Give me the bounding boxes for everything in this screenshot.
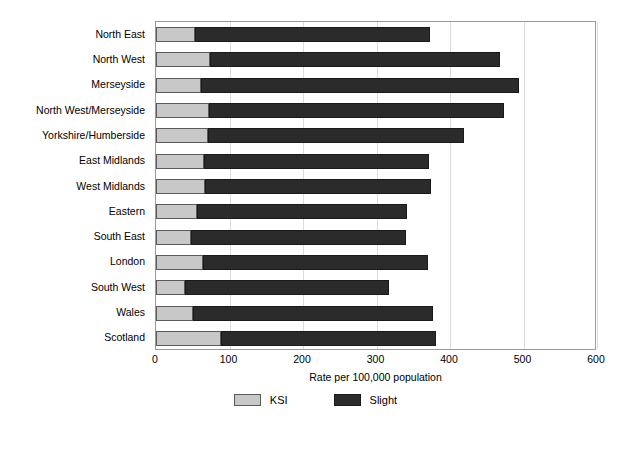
bar-segment-slight[interactable] <box>208 128 464 143</box>
x-tick-label-100: 100 <box>220 353 238 365</box>
legend-item-ksi[interactable]: KSI <box>234 394 288 406</box>
bar-segment-slight[interactable] <box>191 230 406 245</box>
x-tick-label-0: 0 <box>152 353 158 365</box>
bar-segment-slight[interactable] <box>185 280 389 295</box>
y-axis-category-labels: North EastNorth WestMerseysideNorth West… <box>0 21 150 350</box>
bar-row[interactable] <box>156 52 597 67</box>
bar-segment-slight[interactable] <box>193 306 433 321</box>
bar-row[interactable] <box>156 255 597 270</box>
x-tick-label-600: 600 <box>587 353 605 365</box>
bar-row[interactable] <box>156 179 597 194</box>
y-axis-label: North West/Merseyside <box>0 104 145 116</box>
bar-row[interactable] <box>156 103 597 118</box>
bar-segment-ksi[interactable] <box>156 179 205 194</box>
bar-segment-ksi[interactable] <box>156 154 204 169</box>
bar-row[interactable] <box>156 204 597 219</box>
bar-row[interactable] <box>156 230 597 245</box>
bar-row[interactable] <box>156 280 597 295</box>
bar-row[interactable] <box>156 27 597 42</box>
legend-label: KSI <box>270 394 288 406</box>
y-axis-label: South West <box>0 281 145 293</box>
bar-segment-ksi[interactable] <box>156 78 201 93</box>
bar-segment-ksi[interactable] <box>156 306 193 321</box>
bar-row[interactable] <box>156 78 597 93</box>
bar-segment-slight[interactable] <box>197 204 407 219</box>
bar-segment-ksi[interactable] <box>156 280 185 295</box>
bar-segment-ksi[interactable] <box>156 128 208 143</box>
y-axis-label: Yorkshire/Humberside <box>0 129 145 141</box>
legend-item-slight[interactable]: Slight <box>334 394 398 406</box>
bar-row[interactable] <box>156 331 597 346</box>
chart-legend: KSISlight <box>0 394 631 406</box>
legend-swatch-slight <box>334 394 361 406</box>
y-axis-label: East Midlands <box>0 154 145 166</box>
plot-area <box>155 21 596 350</box>
y-axis-label: Merseyside <box>0 78 145 90</box>
legend-swatch-ksi <box>234 394 261 406</box>
bar-segment-ksi[interactable] <box>156 230 191 245</box>
bar-row[interactable] <box>156 154 597 169</box>
bar-segment-slight[interactable] <box>203 255 428 270</box>
y-axis-label: Eastern <box>0 205 145 217</box>
bar-row[interactable] <box>156 128 597 143</box>
x-tick-label-300: 300 <box>367 353 385 365</box>
y-axis-label: Scotland <box>0 331 145 343</box>
x-tick-label-500: 500 <box>514 353 532 365</box>
bar-segment-ksi[interactable] <box>156 103 209 118</box>
bar-segment-ksi[interactable] <box>156 204 197 219</box>
y-axis-label: North East <box>0 28 145 40</box>
y-axis-label: Wales <box>0 306 145 318</box>
x-tick-label-400: 400 <box>440 353 458 365</box>
gridline-600 <box>597 22 598 349</box>
x-axis-tick-labels: 0100200300400500600 <box>0 353 631 369</box>
stacked-bar-chart: North EastNorth WestMerseysideNorth West… <box>0 0 631 454</box>
bar-segment-slight[interactable] <box>221 331 436 346</box>
y-axis-label: West Midlands <box>0 180 145 192</box>
bar-segment-ksi[interactable] <box>156 52 210 67</box>
bar-segment-slight[interactable] <box>195 27 430 42</box>
legend-label: Slight <box>370 394 398 406</box>
y-axis-label: South East <box>0 230 145 242</box>
bar-segment-slight[interactable] <box>209 103 504 118</box>
bar-segment-slight[interactable] <box>205 179 431 194</box>
bar-segment-ksi[interactable] <box>156 27 195 42</box>
x-axis-title: Rate per 100,000 population <box>155 371 596 383</box>
bar-segment-slight[interactable] <box>210 52 500 67</box>
bar-row[interactable] <box>156 306 597 321</box>
bar-segment-slight[interactable] <box>201 78 519 93</box>
y-axis-label: North West <box>0 53 145 65</box>
y-axis-label: London <box>0 255 145 267</box>
bar-segment-ksi[interactable] <box>156 255 203 270</box>
x-tick-label-200: 200 <box>293 353 311 365</box>
bar-segment-ksi[interactable] <box>156 331 221 346</box>
bar-segment-slight[interactable] <box>204 154 429 169</box>
